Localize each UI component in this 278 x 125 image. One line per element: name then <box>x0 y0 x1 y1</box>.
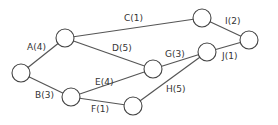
edge-h <box>133 52 207 106</box>
node-n5 <box>144 60 162 78</box>
edge-label: J(1) <box>222 52 237 61</box>
edge-label: B(3) <box>35 91 54 100</box>
edge-label: C(1) <box>124 14 143 23</box>
edges-layer <box>21 18 249 106</box>
edge-label: G(3) <box>165 50 185 59</box>
edge-label: F(1) <box>91 105 109 114</box>
node-n2 <box>56 29 74 47</box>
edge-label: A(4) <box>27 43 46 52</box>
edge-label: D(5) <box>112 44 132 53</box>
node-n8 <box>240 31 258 49</box>
node-n4 <box>193 9 211 27</box>
node-n3 <box>62 88 80 106</box>
edge-label: I(2) <box>225 17 240 26</box>
edge-d <box>65 38 153 69</box>
node-n6 <box>124 97 142 115</box>
node-n7 <box>198 43 216 61</box>
network-diagram: A(4)B(3)C(1)D(5)E(4)F(1)G(3)H(5)I(2)J(1) <box>0 0 278 125</box>
edge-label: E(4) <box>95 78 113 87</box>
node-n1 <box>12 64 30 82</box>
edge-label: H(5) <box>166 85 186 94</box>
